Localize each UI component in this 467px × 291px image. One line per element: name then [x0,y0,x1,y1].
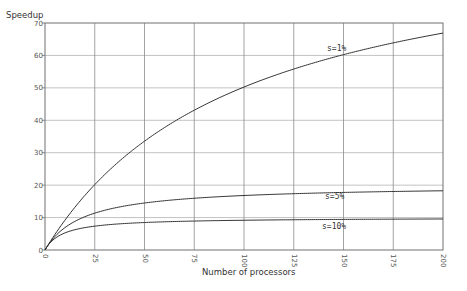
y-tick-label: 20 [34,182,43,190]
curve-label-s1: s=1% [327,44,346,53]
y-axis-title: Speedup [6,10,43,20]
curve-label-s10: s=10% [322,222,346,231]
grid [45,23,443,250]
y-tick-label: 50 [34,84,43,92]
x-tick-label: 200 [439,254,447,267]
y-axis-ticks: 010203040506070 [34,20,45,255]
x-tick-label: 25 [91,254,99,263]
x-axis-ticks: 0255075100125150175200 [41,254,447,267]
x-tick-label: 50 [141,254,149,263]
curve-label-s5: s=5% [325,192,344,201]
x-tick-label: 100 [240,254,248,267]
y-tick-label: 70 [34,20,43,28]
speedup-chart: 010203040506070 0255075100125150175200 S… [0,0,467,291]
y-tick-label: 40 [34,117,43,125]
x-tick-label: 125 [290,254,298,267]
y-tick-label: 10 [34,214,43,222]
x-axis-title: Number of processors [202,267,296,277]
x-tick-label: 175 [389,254,397,267]
y-tick-label: 30 [34,149,43,157]
x-tick-label: 0 [41,254,49,258]
y-tick-label: 60 [34,52,43,60]
x-tick-label: 75 [190,254,198,263]
x-tick-label: 150 [340,254,348,267]
